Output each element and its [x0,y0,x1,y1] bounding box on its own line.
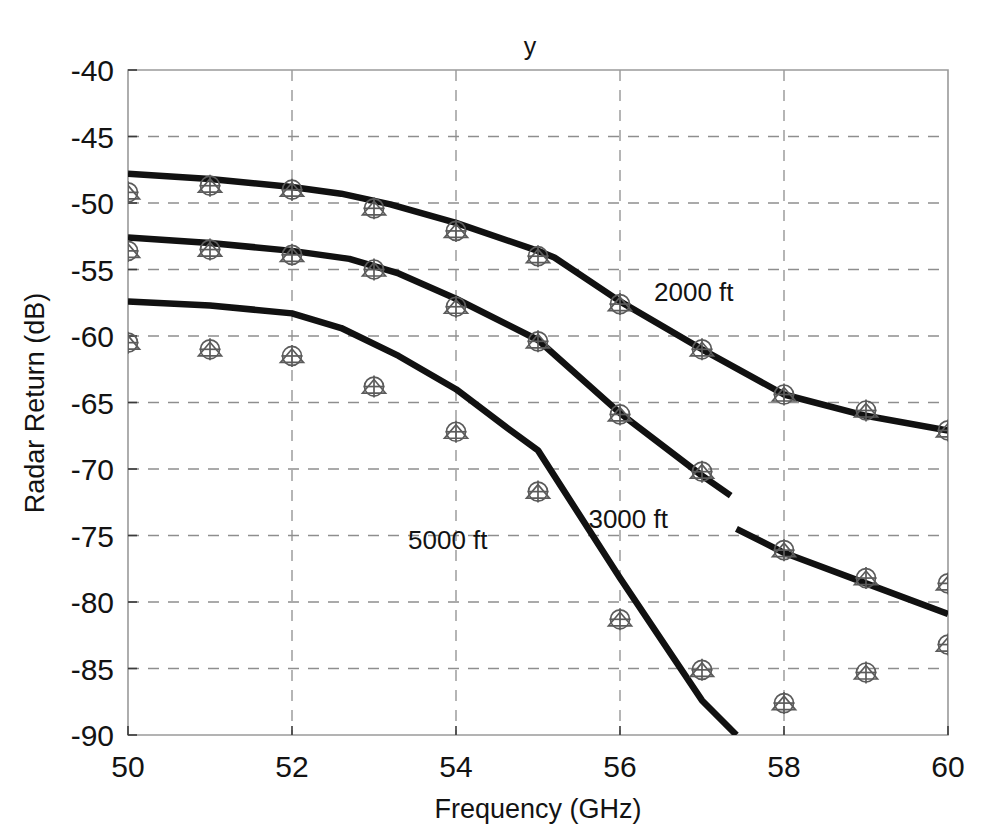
y-axis-title: Radar Return (dB) [20,293,50,514]
x-tick-label: 50 [111,750,144,783]
annotation-3000-ft: 3000 ft [588,504,668,534]
y-tick-label: -55 [71,254,114,287]
x-tick-label: 52 [275,750,308,783]
y-tick-label: -40 [71,54,114,87]
x-tick-label: 60 [931,750,964,783]
y-tick-label: -80 [71,586,114,619]
y-tick-label: -60 [71,320,114,353]
y-tick-label: -45 [71,121,114,154]
x-tick-label: 56 [603,750,636,783]
x-tick-label: 54 [439,750,472,783]
y-tick-label: -75 [71,520,114,553]
x-tick-label: 58 [767,750,800,783]
radar-return-figure: -40-45-50-55-60-65-70-75-80-85-90 505254… [0,0,1001,839]
chart-canvas: -40-45-50-55-60-65-70-75-80-85-90 505254… [0,0,1001,839]
annotation-2000-ft: 2000 ft [654,277,734,307]
y-tick-label: -70 [71,453,114,486]
y-tick-label: -85 [71,653,114,686]
y-tick-label: -50 [71,187,114,220]
x-axis-title: Frequency (GHz) [434,794,641,824]
y-tick-label: -90 [71,719,114,752]
y-tick-label: -65 [71,387,114,420]
chart-title: y [524,32,537,60]
annotation-5000-ft: 5000 ft [408,525,488,555]
